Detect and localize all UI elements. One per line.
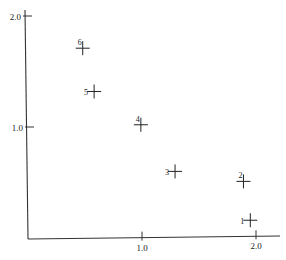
data-point: 4 — [134, 115, 148, 132]
x-axis-line — [28, 236, 280, 239]
point-label: 5 — [84, 88, 88, 97]
y-tick-label: 1.0 — [12, 123, 24, 133]
data-point: 1 — [240, 213, 257, 227]
scatter-chart: 1.02.01.02.0 123456 — [0, 0, 286, 260]
data-point: 3 — [165, 164, 182, 178]
point-label: 1 — [240, 217, 244, 226]
point-label: 3 — [165, 168, 169, 177]
data-point: 5 — [84, 84, 101, 98]
data-point: 2 — [236, 171, 250, 188]
data-points: 123456 — [76, 38, 258, 227]
tick-marks: 1.02.01.02.0 — [10, 12, 262, 253]
point-label: 4 — [136, 115, 140, 124]
y-axis-line — [25, 10, 28, 239]
point-label: 6 — [78, 38, 82, 47]
x-tick-label: 1.0 — [136, 243, 148, 253]
point-label: 2 — [238, 171, 242, 180]
y-tick-label: 2.0 — [10, 12, 22, 22]
x-tick-label: 2.0 — [250, 241, 262, 251]
data-point: 6 — [76, 38, 90, 55]
axes — [25, 10, 280, 239]
plot-area: 1.02.01.02.0 123456 — [0, 0, 286, 260]
